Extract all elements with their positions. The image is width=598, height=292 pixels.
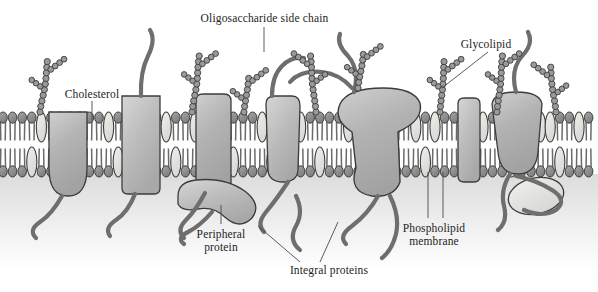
phospholipid-head — [0, 112, 7, 123]
sugar-monomer — [181, 72, 187, 78]
phospholipid-head — [248, 166, 257, 177]
phospholipid-head — [335, 166, 344, 177]
label-cholesterol: Cholesterol — [56, 88, 128, 101]
phospholipid-head — [536, 166, 545, 177]
cholesterol-molecule — [420, 147, 430, 177]
phospholipid-head — [172, 112, 181, 123]
label-phospholipid-membrane-line2: membrane — [409, 235, 459, 247]
integral-protein-3 — [196, 94, 231, 193]
sugar-monomer — [291, 51, 297, 57]
cholesterol-molecule — [161, 112, 171, 142]
label-integral-proteins: Integral proteins — [280, 264, 378, 277]
phospholipid-head — [162, 166, 171, 177]
phospholipid-head — [239, 166, 248, 177]
sugar-monomer — [531, 62, 537, 68]
sugar-monomer — [441, 59, 447, 65]
phospholipid-head — [258, 166, 267, 177]
cholesterol-molecule — [545, 112, 555, 142]
cholesterol-molecule — [315, 147, 325, 177]
sugar-monomer — [458, 56, 464, 62]
integral-protein-1 — [49, 112, 87, 196]
label-peripheral-protein: Peripheralprotein — [186, 228, 256, 253]
sugar-monomer — [192, 92, 198, 98]
cholesterol-molecule — [430, 112, 440, 142]
sugar-monomer — [230, 88, 236, 94]
phospholipid-head — [95, 166, 104, 177]
phospholipid-head — [95, 112, 104, 123]
integral-protein-4 — [266, 96, 300, 182]
oligosaccharide-chain — [29, 56, 67, 115]
sugar-monomer — [427, 77, 433, 83]
sugar-monomer — [191, 98, 197, 104]
phospholipid-head — [450, 112, 459, 123]
sugar-monomer — [377, 44, 383, 50]
phospholipid-head — [450, 166, 459, 177]
phospholipid-head — [248, 112, 257, 123]
label-glycolipid: Glycolipid — [455, 38, 517, 51]
sugar-monomer — [563, 83, 569, 89]
phospholipid-head — [546, 166, 555, 177]
sugar-monomer — [44, 59, 50, 65]
cholesterol-molecule — [171, 147, 181, 177]
phospholipid-head — [104, 166, 113, 177]
label-peripheral-protein-line1: Peripheral — [197, 228, 246, 240]
phospholipid-head — [412, 166, 421, 177]
phospholipid-head — [181, 166, 190, 177]
sugar-monomer — [516, 51, 522, 57]
phospholipid-head — [565, 112, 574, 123]
integral-protein-6 — [458, 98, 480, 182]
sugar-monomer — [344, 64, 350, 70]
sugar-monomer — [307, 53, 313, 59]
cell-membrane-diagram: Oligosaccharide side chain Cholesterol G… — [0, 0, 598, 292]
sugar-monomer — [61, 56, 67, 62]
cholesterol-molecule — [104, 112, 114, 142]
sugar-monomer — [38, 103, 44, 109]
integral-protein-2 — [122, 96, 160, 194]
phospholipid-head — [575, 166, 584, 177]
label-oligosaccharide-side-chain: Oligosaccharide side chain — [197, 12, 332, 25]
sugar-monomer — [190, 103, 196, 109]
phospholipid-head — [28, 112, 37, 123]
sugar-monomer — [356, 79, 362, 85]
phospholipid-head — [18, 166, 27, 177]
sugar-monomer — [263, 68, 269, 74]
phospholipid-head — [325, 166, 334, 177]
phospholipid-head — [440, 166, 449, 177]
phospholipid-head — [8, 112, 17, 123]
phospholipid-head — [181, 112, 190, 123]
cholesterol-molecule — [555, 147, 565, 177]
sugar-monomer — [196, 53, 202, 59]
phospholipid-head — [488, 166, 497, 177]
phospholipid-head — [431, 166, 440, 177]
phospholipid-head — [344, 166, 353, 177]
label-phospholipid-membrane: Phospholipidmembrane — [390, 222, 478, 247]
phospholipid-head — [325, 112, 334, 123]
sugar-monomer — [548, 64, 554, 70]
oligosaccharide-chain — [230, 68, 269, 116]
sugar-monomer — [213, 51, 219, 57]
sugar-monomer — [322, 72, 328, 78]
cholesterol-molecule — [36, 112, 46, 142]
cholesterol-molecule — [574, 112, 584, 142]
phospholipid-head — [584, 112, 593, 123]
label-peripheral-protein-line2: protein — [204, 241, 238, 253]
phospholipid-head — [0, 166, 7, 177]
sugar-monomer — [499, 53, 505, 59]
cholesterol-molecule — [27, 147, 37, 177]
phospholipid-head — [565, 166, 574, 177]
phospholipid-head — [421, 112, 430, 123]
phospholipid-head — [18, 112, 27, 123]
label-phospholipid-membrane-line1: Phospholipid — [403, 222, 466, 234]
phospholipid-head — [37, 166, 46, 177]
sugar-monomer — [485, 72, 491, 78]
phospholipid-head — [114, 112, 123, 123]
sugar-monomer — [40, 92, 46, 98]
sugar-monomer — [39, 98, 45, 104]
phospholipid-head — [306, 166, 315, 177]
phospholipid-head — [402, 166, 411, 177]
sugar-monomer — [551, 98, 557, 104]
phospholipid-head — [8, 166, 17, 177]
phospholipid-head — [584, 166, 593, 177]
sugar-monomer — [29, 77, 35, 83]
